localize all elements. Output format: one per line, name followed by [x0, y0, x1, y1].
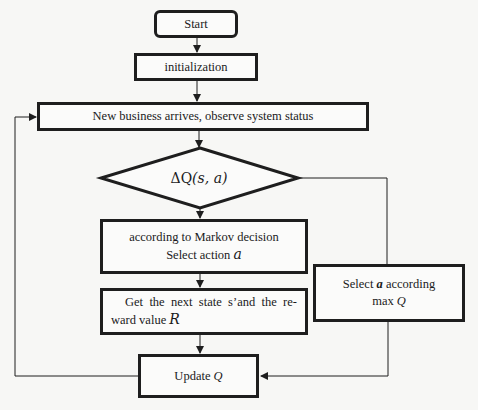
start-label: Start — [184, 16, 208, 33]
observe-status-node: New business arrives, observe system sta… — [37, 102, 369, 131]
markov-decision-node: according to Markov decision Select acti… — [100, 219, 308, 274]
update-q-node: Update Q — [138, 354, 259, 398]
next-state-line1: Get the next state s’and the re- — [111, 294, 297, 311]
initialization-node: initialization — [134, 53, 258, 81]
decision-label-prefix: ΔQ — [171, 170, 193, 186]
next-state-line2: ward value R — [111, 311, 297, 329]
next-state-node: Get the next state s’and the re- ward va… — [100, 288, 308, 335]
select-max-node: Select a according max Q — [313, 264, 465, 322]
select-max-line2: max Q — [372, 293, 406, 310]
select-max-line1: Select a according — [343, 276, 435, 293]
markov-line1: according to Markov decision — [129, 229, 279, 246]
decision-label: ΔQ(s, a) — [100, 148, 298, 208]
markov-line2: Select action a — [166, 246, 242, 264]
start-node: Start — [154, 10, 238, 38]
observe-status-label: New business arrives, observe system sta… — [93, 108, 314, 125]
decision-label-args: (s, a) — [192, 170, 227, 186]
update-q-label: Update Q — [174, 368, 222, 385]
initialization-label: initialization — [164, 59, 227, 76]
edge-decision-selectmax — [298, 178, 387, 264]
